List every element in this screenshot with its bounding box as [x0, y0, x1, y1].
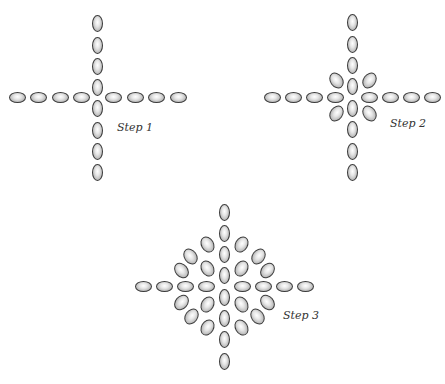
bead [197, 233, 217, 254]
bead [276, 281, 293, 292]
bead [219, 310, 230, 327]
bead [219, 204, 230, 221]
bead [231, 293, 251, 314]
bead [219, 331, 230, 348]
bead [219, 353, 230, 370]
bead [234, 281, 251, 292]
bead [219, 267, 230, 284]
bead [219, 289, 230, 306]
bead [197, 257, 217, 278]
bead [231, 316, 251, 337]
bead [219, 246, 230, 263]
step-3-label: Step 3 [283, 309, 319, 322]
bead [135, 281, 152, 292]
bead [197, 316, 217, 337]
bead [231, 257, 251, 278]
bead [255, 281, 272, 292]
bead [297, 281, 314, 292]
bead [156, 281, 173, 292]
bead [231, 233, 251, 254]
bead [197, 293, 217, 314]
step-3-pattern: Step 3 [0, 0, 445, 384]
bead [219, 225, 230, 242]
bead [198, 281, 215, 292]
bead [177, 281, 194, 292]
